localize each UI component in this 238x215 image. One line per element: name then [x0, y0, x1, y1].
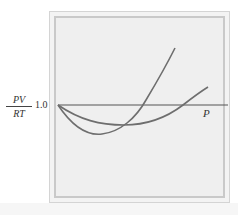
y-label-denominator: RT	[6, 107, 32, 119]
y-label-numerator: PV	[6, 94, 32, 107]
curve-shallow	[58, 87, 208, 125]
x-axis-label: P	[203, 107, 210, 119]
y-tick-label: 1.0	[35, 99, 48, 110]
curve-steep	[58, 48, 175, 134]
y-axis-label: PV RT	[6, 94, 32, 119]
